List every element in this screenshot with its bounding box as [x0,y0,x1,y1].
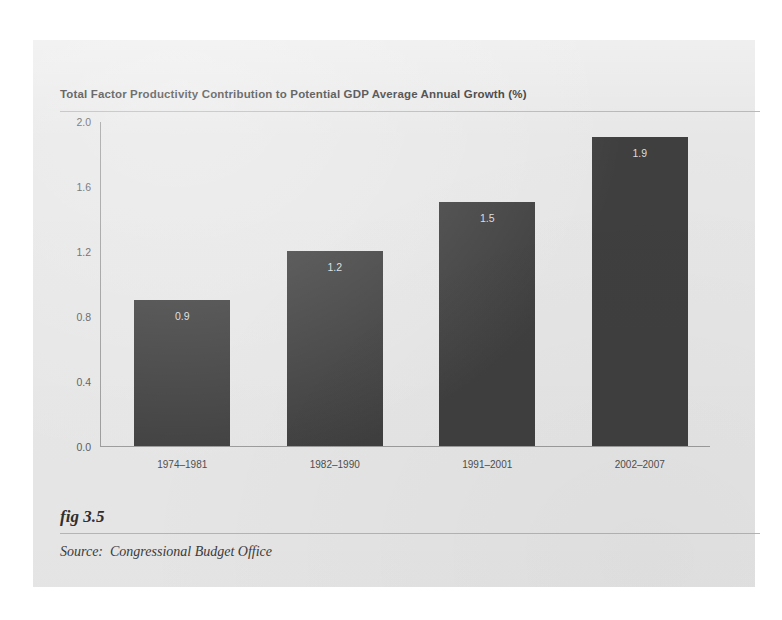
bar: 1.2 [287,251,383,446]
y-axis-tick-label: 0.8 [76,311,91,323]
x-axis-category-label: 2002–2007 [615,459,665,470]
bar: 1.5 [439,202,535,446]
plot-area: 0.00.40.81.21.62.0 0.91.21.51.9 1974–198… [100,122,710,447]
title-divider [60,111,760,112]
bar-value-label: 1.2 [287,261,383,273]
figure-card: Total Factor Productivity Contribution t… [33,40,755,587]
y-axis-tick-label: 2.0 [76,116,91,128]
x-axis-line [100,446,710,447]
x-axis-category-label: 1991–2001 [462,459,512,470]
bar: 0.9 [134,300,230,446]
source-note: Source:Congressional Budget Office [60,544,272,560]
y-axis-tick-label: 0.0 [76,441,91,453]
bar-value-label: 0.9 [134,310,230,322]
bar-value-label: 1.5 [439,212,535,224]
x-axis-category-label: 1982–1990 [310,459,360,470]
footer-divider [60,533,760,534]
bar-value-label: 1.9 [592,147,688,159]
y-axis-tick-label: 0.4 [76,376,91,388]
y-axis-line [100,122,101,447]
chart-title: Total Factor Productivity Contribution t… [60,88,740,100]
y-axis-tick-label: 1.2 [76,246,91,258]
source-text: Congressional Budget Office [110,544,272,559]
y-axis-tick-label: 1.6 [76,181,91,193]
source-label: Source: [60,544,103,559]
figure-number: fig 3.5 [60,507,104,527]
bar: 1.9 [592,137,688,446]
x-axis-category-label: 1974–1981 [157,459,207,470]
